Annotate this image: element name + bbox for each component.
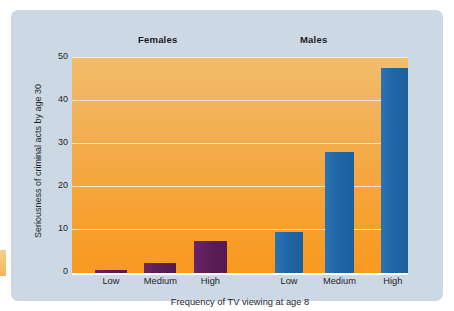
gridline-50: [72, 57, 408, 58]
group-title-males: Males: [300, 34, 327, 45]
x-tick-females-medium: Medium: [144, 276, 177, 286]
y-tick-40: 40: [42, 95, 68, 104]
x-tick-females-low: Low: [102, 276, 119, 286]
gridline-40: [72, 100, 408, 101]
group-title-females: Females: [138, 34, 177, 45]
x-axis-ticks: Low Medium High Low Medium High: [72, 276, 408, 292]
y-tick-50: 50: [42, 52, 68, 61]
x-axis-title: Frequency of TV viewing at age 8: [72, 297, 408, 307]
chart-panel: Females Males Seriousness of criminal ac…: [11, 10, 443, 301]
x-tick-males-low: Low: [281, 276, 298, 286]
y-tick-0: 0: [42, 267, 68, 276]
x-tick-males-medium: Medium: [323, 276, 356, 286]
x-tick-males-high: High: [383, 276, 402, 286]
y-axis-ticks: 50 40 30 20 10 0: [41, 57, 68, 273]
bar-males-medium: [325, 152, 354, 273]
x-tick-females-high: High: [201, 276, 220, 286]
plot-area: [72, 57, 408, 273]
gridline-30: [72, 143, 408, 144]
y-tick-30: 30: [42, 138, 68, 147]
bar-males-low: [275, 232, 303, 273]
gridline-20: [72, 186, 408, 187]
bar-males-high: [381, 68, 408, 273]
bar-females-high: [194, 241, 226, 273]
y-tick-10: 10: [42, 224, 68, 233]
chart-figure: Females Males Seriousness of criminal ac…: [0, 0, 454, 311]
y-tick-20: 20: [42, 181, 68, 190]
scan-edge-artifact: [0, 250, 6, 276]
gridline-10: [72, 229, 408, 230]
bar-females-medium: [144, 263, 176, 273]
x-axis-baseline: [72, 273, 408, 275]
